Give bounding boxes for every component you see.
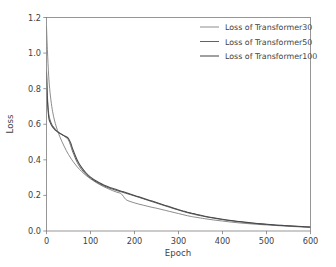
loss-chart-figure: 0100200300400500600 0.00.20.40.60.81.01.…	[0, 0, 336, 267]
y-tick-label: 1.0	[28, 48, 41, 58]
x-tick-label: 500	[259, 236, 275, 246]
x-tick-label: 600	[303, 236, 319, 246]
y-tick-label: 0.6	[28, 119, 41, 129]
y-tick-label: 0.4	[28, 155, 41, 165]
legend-label-2: Loss of Transformer100	[225, 52, 317, 61]
legend-label-0: Loss of Transformer30	[225, 23, 312, 32]
y-tick-label: 1.2	[28, 13, 41, 23]
y-tick-label: 0.2	[28, 190, 41, 200]
y-axis-title: Loss	[5, 114, 15, 133]
chart-canvas: 0100200300400500600 0.00.20.40.60.81.01.…	[0, 0, 336, 267]
x-axis-title: Epoch	[165, 248, 191, 258]
x-tick-label: 400	[215, 236, 231, 246]
x-tick-label: 100	[83, 236, 99, 246]
y-tick-label: 0.8	[28, 84, 41, 94]
legend-label-1: Loss of Transformer50	[225, 38, 312, 47]
y-tick-label: 0.0	[28, 226, 41, 236]
x-tick-label: 200	[127, 236, 143, 246]
x-tick-label: 300	[171, 236, 187, 246]
x-tick-label: 0	[44, 236, 49, 246]
